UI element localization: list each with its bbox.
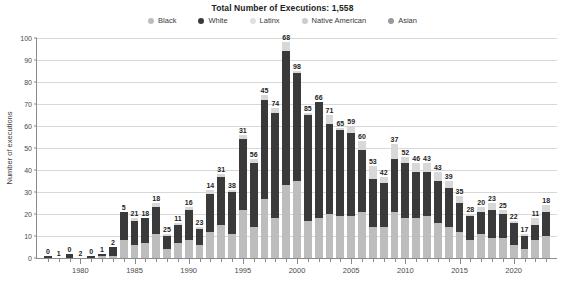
x-axis-tick-mark	[113, 258, 114, 262]
bar-column[interactable]	[261, 95, 269, 258]
bar-column[interactable]	[391, 144, 399, 258]
bar-column[interactable]	[174, 223, 182, 258]
bar-column[interactable]	[369, 166, 377, 258]
x-axis-ticks: 198019851990199520002005201020152020	[37, 258, 557, 286]
bar-column[interactable]	[477, 207, 485, 258]
bar-series-container: 0102012521181825111623143138315645746898…	[37, 38, 557, 258]
bar-segment-white	[510, 223, 518, 245]
bar-column[interactable]	[120, 212, 128, 258]
bar-segment-latinx	[401, 157, 409, 164]
bar-column[interactable]	[239, 135, 247, 258]
bar-value-label: 1	[57, 250, 61, 257]
bar-column[interactable]	[488, 203, 496, 258]
bar-column[interactable]	[336, 128, 344, 258]
bar-segment-latinx	[445, 181, 453, 188]
bar-column[interactable]	[109, 247, 117, 258]
bar-value-label: 65	[336, 120, 344, 127]
bar-column[interactable]	[206, 190, 214, 258]
bar-value-label: 20	[477, 199, 485, 206]
bar-value-label: 1	[100, 246, 104, 253]
bar-column[interactable]	[423, 163, 431, 258]
bar-column[interactable]	[380, 177, 388, 258]
bar-segment-white	[499, 214, 507, 238]
bar-segment-black	[293, 181, 301, 258]
plot-area: 0102030405060708090100 Number of executi…	[37, 38, 557, 258]
x-axis-tick-mark	[525, 258, 526, 262]
bar-column[interactable]	[499, 210, 507, 258]
bar-column[interactable]	[131, 218, 139, 258]
bar-segment-latinx	[380, 177, 388, 184]
bar-segment-white	[542, 212, 550, 236]
bar-segment-black	[228, 234, 236, 258]
bar-value-label: 21	[131, 210, 139, 217]
bar-column[interactable]	[445, 181, 453, 258]
x-axis-tick-mark	[438, 258, 439, 262]
bar-column[interactable]	[217, 174, 225, 258]
bar-value-label: 11	[532, 210, 539, 217]
bar-column[interactable]	[521, 234, 529, 258]
bar-column[interactable]	[304, 113, 312, 258]
bar-segment-latinx	[412, 163, 420, 172]
bar-column[interactable]	[185, 207, 193, 258]
bar-column[interactable]	[510, 221, 518, 258]
bar-column[interactable]	[250, 159, 258, 258]
bar-segment-white	[326, 124, 334, 214]
bar-column[interactable]	[293, 71, 301, 258]
bar-value-label: 0	[46, 248, 50, 255]
x-axis-tick-mark	[145, 258, 146, 262]
bar-segment-black	[152, 234, 160, 258]
x-axis-tick-mark	[243, 258, 244, 264]
legend-item-native-american[interactable]: Native American	[302, 16, 367, 25]
bar-value-label: 2	[78, 250, 82, 257]
bar-column[interactable]	[434, 172, 442, 258]
bar-column[interactable]	[141, 218, 149, 258]
legend-item-asian[interactable]: Asian	[388, 16, 417, 25]
bar-segment-black	[434, 223, 442, 258]
bar-value-label: 60	[358, 133, 366, 140]
bar-column[interactable]	[466, 214, 474, 258]
bar-segment-white	[185, 210, 193, 241]
bar-segment-black	[282, 185, 290, 258]
bar-column[interactable]	[401, 157, 409, 258]
bar-column[interactable]	[228, 190, 236, 258]
x-axis-tick-mark	[59, 258, 60, 262]
bar-value-label: 38	[228, 182, 236, 189]
bar-column[interactable]	[358, 141, 366, 258]
legend-item-label: White	[208, 16, 227, 25]
x-axis-tick-label: 1985	[126, 266, 143, 275]
bar-value-label: 56	[250, 151, 258, 158]
bar-column[interactable]	[152, 203, 160, 258]
bar-segment-black	[423, 216, 431, 258]
x-axis-tick-mark	[210, 258, 211, 262]
bar-column[interactable]	[412, 163, 420, 258]
bar-column[interactable]	[531, 218, 539, 258]
bar-segment-latinx	[423, 163, 431, 172]
bar-segment-white	[109, 247, 117, 256]
legend-item-black[interactable]: Black	[148, 16, 176, 25]
bar-segment-black	[131, 245, 139, 258]
bar-column[interactable]	[163, 234, 171, 258]
bar-value-label: 46	[412, 155, 420, 162]
bar-value-label: 23	[488, 195, 496, 202]
bar-value-label: 0	[68, 246, 72, 253]
x-axis-tick-mark	[535, 258, 536, 262]
bar-column[interactable]	[282, 42, 290, 258]
bar-segment-white	[336, 130, 344, 216]
bar-column[interactable]	[456, 196, 464, 258]
bar-column[interactable]	[326, 115, 334, 258]
bar-segment-white	[250, 163, 258, 227]
bar-value-label: 59	[347, 118, 355, 125]
x-axis-tick-label: 2015	[451, 266, 468, 275]
x-axis-tick-mark	[102, 258, 103, 262]
bar-column[interactable]	[196, 227, 204, 258]
bar-segment-white	[239, 139, 247, 209]
bar-segment-latinx	[326, 115, 334, 124]
legend-item-white[interactable]: White	[198, 16, 227, 25]
bar-column[interactable]	[315, 102, 323, 258]
legend-item-latinx[interactable]: Latinx	[250, 16, 280, 25]
x-axis-tick-mark	[405, 258, 406, 264]
bar-column[interactable]	[347, 126, 355, 258]
bar-column[interactable]	[271, 108, 279, 258]
bar-column[interactable]	[542, 205, 550, 258]
bar-value-label: 2	[111, 239, 115, 246]
